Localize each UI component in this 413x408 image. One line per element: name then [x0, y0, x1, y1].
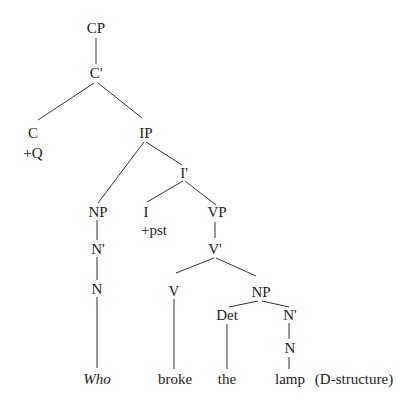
node-n-bar-subject: N'	[91, 242, 105, 257]
word-broke: broke	[158, 372, 192, 387]
node-c-bar: C'	[90, 66, 103, 81]
node-ip: IP	[139, 126, 152, 141]
node-n-bar-object: N'	[283, 308, 297, 323]
word-who: Who	[83, 372, 111, 387]
node-v: V	[169, 284, 180, 299]
structure-annotation: (D-structure)	[315, 372, 393, 387]
node-n-object: N	[285, 341, 296, 356]
node-i-feature: +pst	[141, 223, 167, 238]
node-cp: CP	[87, 21, 105, 36]
word-the: the	[218, 372, 236, 387]
node-det: Det	[216, 308, 238, 323]
node-i: I	[144, 205, 149, 220]
node-np-subject: NP	[88, 205, 107, 220]
node-c: C	[28, 126, 38, 141]
node-vp: VP	[207, 205, 226, 220]
node-c-feature: +Q	[23, 146, 42, 161]
syntax-tree: CP C' C +Q IP I' NP I +pst VP N' N V' V …	[0, 0, 413, 408]
node-np-object: NP	[251, 285, 270, 300]
node-i-bar: I'	[180, 166, 188, 181]
node-v-bar: V'	[208, 242, 222, 257]
word-lamp: lamp	[275, 372, 305, 387]
node-n-subject: N	[92, 282, 103, 297]
